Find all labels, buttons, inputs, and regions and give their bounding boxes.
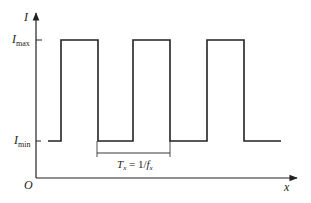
y-axis-label: I [23,10,29,24]
origin-label: O [24,178,33,192]
imin-label: Imin [13,133,30,149]
period-label: Tx = 1/fx [117,158,154,172]
period-bracket [97,141,170,157]
x-axis-label: x [283,180,290,194]
square-wave-diagram: I x O Imax Imin Tx = 1/fx [0,0,311,203]
imax-label: Imax [11,32,30,48]
square-waveform [48,40,281,141]
